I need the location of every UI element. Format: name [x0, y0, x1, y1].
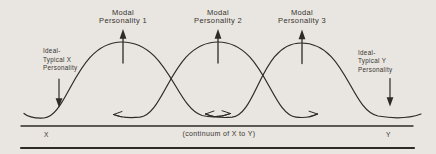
down-arrow-right — [387, 79, 394, 107]
bell-curve-2 — [114, 42, 318, 118]
up-arrow-2 — [215, 29, 222, 63]
modal-personality-1-label: ModalPersonality 1 — [88, 9, 158, 25]
personality-continuum-diagram: ModalPersonality 1 ModalPersonality 2 Mo… — [0, 0, 436, 154]
modal-personality-3-label: ModalPersonality 3 — [267, 9, 337, 25]
axis-label-x: X — [44, 131, 49, 138]
axis-label-y: Y — [386, 131, 391, 138]
modal-personality-2-label: ModalPersonality 2 — [183, 9, 253, 25]
tail-arrowhead-curve2-left-icon — [114, 112, 123, 117]
continuum-label: (continuum of X to Y) — [154, 130, 284, 137]
up-arrow-3 — [299, 30, 306, 64]
up-arrow-1 — [120, 29, 127, 63]
modal-2-line2: Personality 2 — [194, 16, 242, 25]
ideal-x-line3: Personality — [43, 64, 77, 71]
tail-arrowhead-curve2-right-icon — [309, 111, 318, 116]
tail-arrowhead-curve3-left-icon — [206, 111, 215, 116]
ideal-x-line1: Ideal- — [43, 47, 61, 54]
ideal-x-line2: Typical X — [43, 56, 71, 63]
modal-3-line2: Personality 3 — [278, 16, 326, 25]
ideal-y-line1: Ideal- — [358, 49, 376, 56]
ideal-y-line3: Personality — [358, 66, 392, 73]
ideal-typical-y-label: Ideal-Typical YPersonality — [358, 49, 392, 75]
modal-1-line2: Personality 1 — [99, 16, 147, 25]
ideal-y-line2: Typical Y — [358, 57, 386, 64]
ideal-typical-x-label: Ideal-Typical XPersonality — [43, 47, 77, 73]
